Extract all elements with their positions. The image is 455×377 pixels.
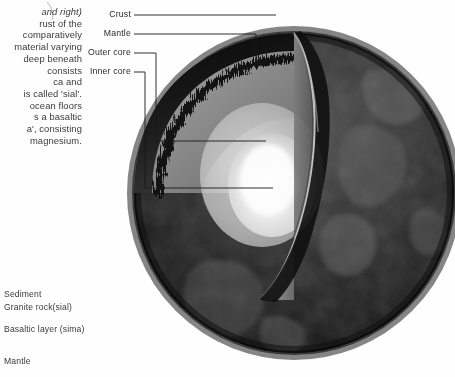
figure-canvas: Crust Mantle Outer core Inner core and r… [0, 0, 455, 377]
crust-label-granite-rock: Granite rock(sial) [4, 302, 72, 312]
caption-line-9: s a basaltic [0, 111, 82, 123]
caption-line-0: and right) [0, 6, 82, 18]
callout-label-inner-core: Inner core [90, 66, 131, 76]
caption-line-6: ca and [0, 76, 82, 88]
caption-line-11: magnesium. [0, 135, 82, 147]
crust-label-sediment: Sediment [4, 289, 42, 299]
callout-label-outer-core: Outer core [88, 47, 131, 57]
caption-line-4: deep beneath [0, 53, 82, 65]
caption-line-7: is called 'sial'. [0, 88, 82, 100]
caption-line-2: comparatively [0, 29, 82, 41]
caption-line-1: rust of the [0, 18, 82, 30]
callout-label-crust: Crust [109, 9, 131, 19]
caption-line-10: a', consisting [0, 123, 82, 135]
caption-paragraph: and right) rust of the comparatively mat… [0, 6, 82, 146]
caption-line-5: consists [0, 65, 82, 77]
callout-label-mantle: Mantle [104, 28, 131, 38]
caption-line-8: ocean floors [0, 100, 82, 112]
crust-label-mantle: Mantle [4, 356, 31, 366]
caption-line-3: material varying [0, 41, 82, 53]
crust-label-basaltic-layer: Basaltic layer (sima) [4, 324, 85, 334]
